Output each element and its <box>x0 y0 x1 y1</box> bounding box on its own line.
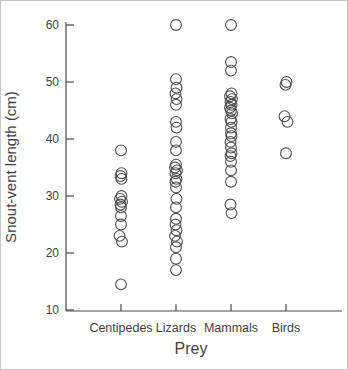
data-point-marker <box>116 145 127 156</box>
axes <box>66 22 342 311</box>
data-point-marker <box>226 65 237 76</box>
data-point-marker <box>116 279 127 290</box>
y-tick-label: 10 <box>46 303 60 317</box>
data-point-marker <box>281 148 292 159</box>
data-point-marker <box>171 20 182 31</box>
data-points <box>114 20 293 290</box>
data-point-marker <box>171 202 182 213</box>
data-point-marker <box>226 20 237 31</box>
y-tick-label: 50 <box>46 75 60 89</box>
y-tick-label: 30 <box>46 189 60 203</box>
data-point-marker <box>226 57 237 68</box>
data-point-marker <box>116 211 127 222</box>
y-tick-label: 20 <box>46 246 60 260</box>
x-axis-title: Prey <box>175 340 208 357</box>
strip-plot: 102030405060CentipedesLizardsMammalsBird… <box>1 1 347 369</box>
x-category-label: Lizards <box>156 321 196 335</box>
data-point-marker <box>171 265 182 276</box>
x-category-label: Birds <box>272 321 300 335</box>
data-point-marker <box>226 176 237 187</box>
strip-plot-figure: 102030405060CentipedesLizardsMammalsBird… <box>0 0 348 370</box>
data-point-marker <box>171 253 182 264</box>
y-axis-title: Snout-vent length (cm) <box>2 91 19 243</box>
data-point-marker <box>116 219 127 230</box>
y-tick-label: 60 <box>46 18 60 32</box>
y-tick-label: 40 <box>46 132 60 146</box>
data-point-marker <box>226 165 237 176</box>
data-point-marker <box>171 136 182 147</box>
data-point-marker <box>171 145 182 156</box>
x-category-label: Centipedes <box>89 321 152 335</box>
x-category-label: Mammals <box>204 321 258 335</box>
